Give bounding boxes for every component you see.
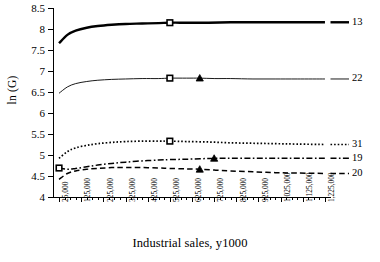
x-tick-label: 325,000	[129, 178, 136, 202]
x-tick-minor	[231, 197, 232, 200]
series-line-31	[59, 141, 325, 158]
series-marker-square-22	[167, 75, 173, 81]
y-tick-label: 6.5	[11, 87, 45, 97]
y-tick-label: 7.5	[11, 45, 45, 55]
series-label-13: 13	[352, 17, 363, 27]
y-tick	[48, 155, 53, 156]
x-tick-minor	[253, 197, 254, 200]
x-tick-major	[192, 197, 193, 202]
x-tick-minor	[164, 197, 165, 200]
x-axis-title: Industrial sales, y1000	[0, 236, 380, 251]
x-tick-label: 1,125,000	[306, 172, 313, 202]
y-tick	[48, 92, 53, 93]
series-label-19: 19	[352, 153, 363, 163]
y-tick-label: 7	[11, 66, 45, 76]
y-tick-label: 5.5	[11, 129, 45, 139]
x-tick-major	[214, 197, 215, 202]
x-tick-major	[148, 197, 149, 202]
y-tick	[48, 113, 53, 114]
y-tick-label: 6	[11, 108, 45, 118]
x-tick-label: 1,025,000	[284, 172, 291, 202]
series-marker-square-19	[56, 165, 62, 171]
x-tick-major	[258, 197, 259, 202]
y-tick-label: 4.5	[11, 171, 45, 181]
x-tick-minor	[186, 197, 187, 200]
y-tick	[48, 50, 53, 51]
y-tick	[48, 176, 53, 177]
series-marker-square-13	[167, 20, 173, 26]
x-tick-major	[126, 197, 127, 202]
x-tick-label: 425,000	[151, 178, 158, 202]
chart-figure: ln (G) 8.587.576.565.554.54 25,000125,00…	[0, 0, 380, 262]
x-tick-major	[303, 197, 304, 202]
y-tick-label: 8.5	[11, 3, 45, 13]
series-marker-triangle-20	[196, 166, 203, 172]
x-tick-minor	[92, 197, 93, 200]
x-tick-major	[59, 197, 60, 202]
series-line-13	[59, 22, 325, 43]
y-tick	[48, 134, 53, 135]
y-tick	[48, 29, 53, 30]
y-tick-label: 8	[11, 24, 45, 34]
series-label-31: 31	[352, 139, 363, 149]
series-line-22	[59, 78, 325, 93]
series-line-19	[59, 158, 325, 169]
y-tick	[48, 197, 53, 198]
series-marker-triangle-22	[196, 75, 203, 81]
series-marker-triangle-19	[211, 155, 218, 161]
x-tick-minor	[203, 197, 204, 200]
x-tick-label: 825,000	[240, 178, 247, 202]
x-tick-label: 725,000	[217, 178, 224, 202]
y-axis-line	[53, 8, 54, 198]
series-marker-square-31	[167, 138, 173, 144]
x-tick-minor	[98, 197, 99, 200]
x-tick-label: 125,000	[84, 178, 91, 202]
y-tick-label: 4	[11, 192, 45, 202]
x-tick-major	[325, 197, 326, 202]
x-tick-label: 625,000	[195, 178, 202, 202]
x-tick-minor	[319, 197, 320, 200]
y-tick	[48, 8, 53, 9]
x-tick-minor	[275, 197, 276, 200]
x-tick-label: 925,000	[262, 178, 269, 202]
x-tick-major	[281, 197, 282, 202]
x-tick-label: 25,000	[62, 182, 69, 202]
chart-plot-area	[0, 0, 380, 262]
x-tick-major	[103, 197, 104, 202]
x-tick-major	[236, 197, 237, 202]
x-tick-minor	[181, 197, 182, 200]
x-tick-minor	[297, 197, 298, 200]
x-tick-minor	[76, 197, 77, 200]
y-tick	[48, 71, 53, 72]
series-label-22: 22	[352, 73, 363, 83]
x-tick-minor	[120, 197, 121, 200]
x-tick-minor	[70, 197, 71, 200]
x-tick-major	[170, 197, 171, 202]
x-tick-label: 1,225,000	[328, 172, 335, 202]
x-tick-minor	[314, 197, 315, 200]
x-tick-minor	[209, 197, 210, 200]
x-tick-label: 225,000	[107, 178, 114, 202]
x-tick-label: 525,000	[173, 178, 180, 202]
y-tick-label: 5	[11, 150, 45, 160]
series-label-20: 20	[352, 168, 363, 178]
x-tick-minor	[142, 197, 143, 200]
x-tick-minor	[225, 197, 226, 200]
